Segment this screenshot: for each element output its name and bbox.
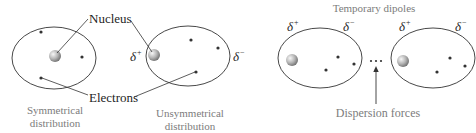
interaction-dots <box>370 60 382 62</box>
electrons-label: Electrons <box>89 91 138 104</box>
nucleus-icon <box>49 50 61 62</box>
electron-icon <box>463 64 466 67</box>
electron-icon <box>216 46 219 49</box>
caption-symmetrical: Symmetrical distribution <box>20 104 90 130</box>
leader-lines <box>42 19 195 97</box>
electron-icon <box>80 55 83 58</box>
nucleus-label: Nucleus <box>89 12 132 25</box>
electron-icon <box>435 70 438 73</box>
electron-icon <box>324 68 327 71</box>
arrow-up-icon <box>373 66 378 104</box>
atom-symmetrical <box>12 27 96 89</box>
nucleus-icon <box>286 54 298 66</box>
atom-dipole-left <box>278 28 362 88</box>
dispersion-forces-label: Dispersion forces <box>330 107 426 120</box>
delta-minus-label: δ− <box>455 19 467 33</box>
delta-minus-label: δ− <box>343 19 355 33</box>
delta-plus-label: δ+ <box>287 19 299 33</box>
atom-dipole-right <box>391 28 475 88</box>
delta-plus-label: δ+ <box>130 49 142 63</box>
caption-unsymmetrical: Unsymmetrical distribution <box>150 107 230 133</box>
atom-unsymmetrical <box>146 26 230 86</box>
electron-icon <box>336 55 339 58</box>
temporary-dipoles-title: Temporary dipoles <box>316 2 432 15</box>
delta-plus-label: δ+ <box>399 19 411 33</box>
electron-icon <box>352 62 355 65</box>
delta-minus-label: δ− <box>233 49 245 63</box>
dispersion-forces-diagram: Nucleus Electrons Symmetrical distributi… <box>0 0 476 133</box>
electron-icon <box>189 38 192 41</box>
electron-icon <box>448 56 451 59</box>
nucleus-icon <box>148 49 160 61</box>
nucleus-icon <box>397 55 409 67</box>
electron-icon <box>39 30 42 33</box>
